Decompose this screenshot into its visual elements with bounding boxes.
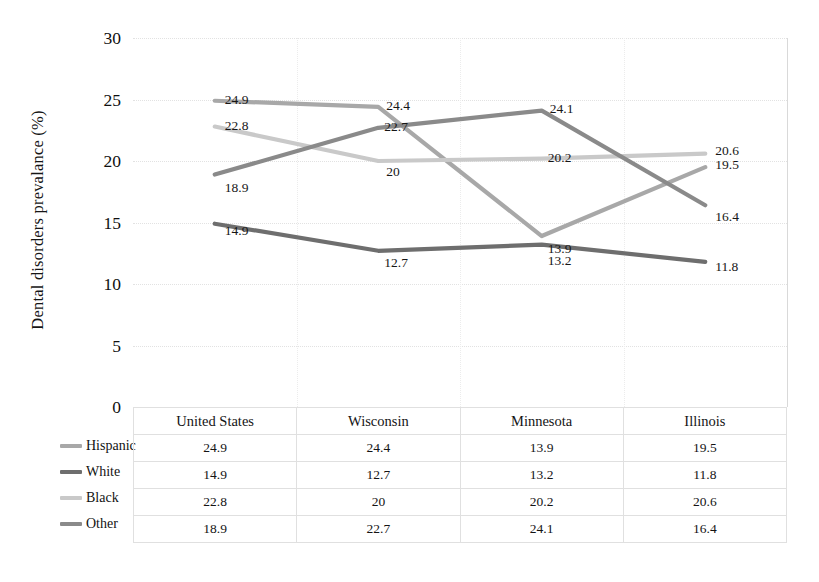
legend-item-other[interactable]: Other: [60, 511, 136, 537]
table-cell: 16.4: [623, 516, 786, 543]
data-table: United StatesWisconsinMinnesotaIllinois2…: [133, 407, 787, 543]
table-row: 18.922.724.116.4: [134, 516, 787, 543]
y-axis-tick-label: 10: [61, 274, 121, 295]
plot-area: 24.924.413.919.514.912.713.211.822.82020…: [133, 38, 788, 407]
data-label: 19.5: [715, 157, 739, 173]
y-axis-title: Dental disorders prevalance (%): [28, 30, 48, 410]
legend: HispanicWhiteBlackOther: [60, 433, 136, 537]
table-cell: 20.6: [623, 489, 786, 516]
data-label: 18.9: [225, 180, 249, 196]
y-axis-tick-label: 0: [61, 397, 121, 418]
table-row: 24.924.413.919.5: [134, 435, 787, 462]
legend-item-white[interactable]: White: [60, 459, 136, 485]
data-label: 24.1: [550, 101, 574, 117]
legend-label: Black: [86, 490, 119, 506]
data-label: 12.7: [384, 255, 408, 271]
chart-figure: Dental disorders prevalance (%) 24.924.4…: [0, 0, 819, 582]
data-label: 20.2: [548, 150, 572, 166]
data-label: 13.2: [548, 253, 572, 269]
legend-label: Other: [86, 516, 118, 532]
table-cell: 24.4: [297, 435, 460, 462]
y-axis-tick-label: 15: [61, 212, 121, 233]
data-label: 24.9: [225, 92, 249, 108]
y-axis-tick-label: 25: [61, 89, 121, 110]
line-series-black: [215, 127, 706, 161]
table-cell: 14.9: [134, 462, 297, 489]
legend-label: Hispanic: [86, 438, 136, 454]
table-cell: 20.2: [460, 489, 623, 516]
table-cell: 24.9: [134, 435, 297, 462]
data-label: 14.9: [225, 223, 249, 239]
table-row: 22.82020.220.6: [134, 489, 787, 516]
table-row: 14.912.713.211.8: [134, 462, 787, 489]
data-label: 16.4: [715, 209, 739, 225]
y-axis-tick-label: 30: [61, 28, 121, 49]
table-cell: 12.7: [297, 462, 460, 489]
table-cell: 19.5: [623, 435, 786, 462]
table-cell: 22.8: [134, 489, 297, 516]
table-cell: 13.9: [460, 435, 623, 462]
table-cell: 20: [297, 489, 460, 516]
table-header-row: United StatesWisconsinMinnesotaIllinois: [134, 408, 787, 435]
table-column-header: United States: [134, 408, 297, 435]
legend-label: White: [86, 464, 120, 480]
legend-item-black[interactable]: Black: [60, 485, 136, 511]
legend-swatch-icon: [60, 470, 82, 474]
y-axis-tick-label: 5: [61, 335, 121, 356]
legend-item-hispanic[interactable]: Hispanic: [60, 433, 136, 459]
table-column-header: Illinois: [623, 408, 786, 435]
legend-swatch-icon: [60, 496, 82, 500]
table-column-header: Wisconsin: [297, 408, 460, 435]
table-column-header: Minnesota: [460, 408, 623, 435]
table-cell: 13.2: [460, 462, 623, 489]
data-label: 22.8: [225, 118, 249, 134]
line-series-white: [215, 224, 706, 262]
data-label: 20.6: [715, 143, 739, 159]
data-label: 24.4: [386, 98, 410, 114]
legend-swatch-icon: [60, 522, 82, 526]
y-axis-tick-label: 20: [61, 151, 121, 172]
table-cell: 11.8: [623, 462, 786, 489]
table-cell: 24.1: [460, 516, 623, 543]
data-label: 22.7: [384, 119, 408, 135]
table-cell: 22.7: [297, 516, 460, 543]
data-label: 20: [386, 164, 400, 180]
data-label: 11.8: [715, 259, 738, 275]
legend-swatch-icon: [60, 444, 82, 448]
table-cell: 18.9: [134, 516, 297, 543]
